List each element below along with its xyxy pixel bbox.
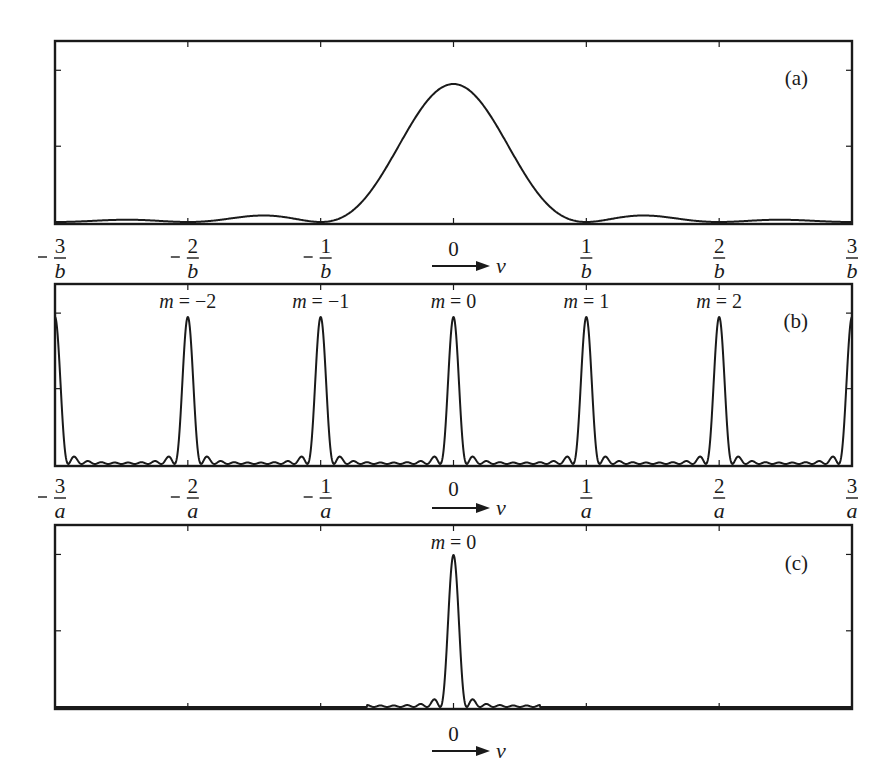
panel-label: (b)	[784, 309, 809, 333]
panel-b: (b)m = −2m = −1m = 0m = 1m = 23a2a1a01a2…	[38, 284, 858, 523]
svg-text:2: 2	[714, 474, 725, 498]
svg-text:2: 2	[714, 234, 725, 258]
grating-curve	[55, 317, 852, 464]
svg-text:b: b	[714, 258, 725, 283]
svg-text:3: 3	[847, 234, 858, 258]
svg-text:v: v	[496, 738, 506, 763]
svg-text:3: 3	[55, 474, 66, 498]
v-axis-arrow: v	[432, 253, 506, 278]
x-tick-label: 3b	[38, 234, 66, 283]
order-label: m = 1	[563, 290, 609, 312]
svg-text:2: 2	[188, 234, 199, 258]
x-tick-label: 3a	[846, 474, 858, 523]
x-tick-label: 3b	[846, 234, 858, 283]
order-label: m = −1	[292, 290, 349, 312]
envelope-curve	[55, 84, 852, 222]
svg-text:a: a	[320, 498, 331, 523]
svg-text:3: 3	[55, 234, 66, 258]
v-axis-arrow: v	[432, 738, 506, 763]
panel-label: (a)	[785, 66, 808, 90]
panel-a: (a)3b2b1b01b2b3bv	[38, 41, 858, 283]
x-tick-label: 2a	[171, 474, 199, 523]
order-label: m = 2	[696, 290, 742, 312]
svg-text:a: a	[55, 498, 66, 523]
svg-text:2: 2	[188, 474, 199, 498]
order-label: m = 0	[431, 290, 477, 312]
x-tick-label: 2a	[713, 474, 725, 523]
svg-text:b: b	[581, 258, 592, 283]
svg-text:b: b	[847, 258, 858, 283]
x-tick-label: 0	[448, 722, 459, 746]
x-tick-label: 3a	[38, 474, 66, 523]
svg-text:1: 1	[320, 474, 331, 498]
svg-text:3: 3	[847, 474, 858, 498]
svg-text:0: 0	[448, 237, 459, 261]
svg-text:b: b	[320, 258, 331, 283]
svg-text:0: 0	[448, 477, 459, 501]
order-label: m = 0	[431, 531, 477, 553]
panel-label: (c)	[785, 551, 808, 575]
svg-text:1: 1	[320, 234, 331, 258]
v-axis-arrow: v	[432, 495, 506, 520]
svg-text:a: a	[714, 498, 725, 523]
x-tick-label: 0	[448, 477, 459, 501]
svg-text:v: v	[496, 253, 506, 278]
order-label: m = −2	[159, 290, 216, 312]
svg-text:0: 0	[448, 722, 459, 746]
x-tick-label: 0	[448, 237, 459, 261]
svg-text:b: b	[187, 258, 198, 283]
x-tick-label: 1a	[304, 474, 332, 523]
panel-c: (c)m = 00v	[55, 525, 852, 763]
svg-text:v: v	[496, 495, 506, 520]
svg-text:b: b	[55, 258, 66, 283]
x-tick-label: 1b	[580, 234, 592, 283]
x-tick-label: 2b	[171, 234, 199, 283]
x-tick-label: 1b	[304, 234, 332, 283]
svg-text:a: a	[847, 498, 858, 523]
x-tick-label: 2b	[713, 234, 725, 283]
diffraction-figure: (a)3b2b1b01b2b3bv(b)m = −2m = −1m = 0m =…	[0, 0, 889, 783]
svg-text:1: 1	[581, 234, 592, 258]
svg-text:a: a	[581, 498, 592, 523]
svg-text:1: 1	[581, 474, 592, 498]
svg-text:a: a	[187, 498, 198, 523]
plot-frame	[55, 41, 852, 224]
zero-order-curve	[55, 555, 852, 707]
x-tick-label: 1a	[580, 474, 592, 523]
